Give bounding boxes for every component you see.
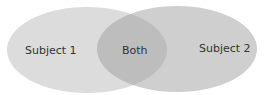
both-label: Both: [122, 44, 148, 57]
subject-1-label: Subject 1: [25, 44, 77, 57]
subject-2-label: Subject 2: [199, 42, 251, 55]
